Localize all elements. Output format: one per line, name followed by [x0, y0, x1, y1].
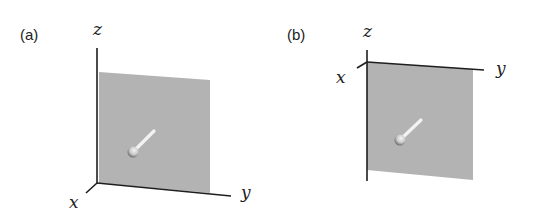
- panel-b: (b) z y x: [287, 21, 506, 181]
- panel-b-label: (b): [287, 26, 305, 43]
- sphere-b: [395, 135, 406, 146]
- figure-canvas: (a) z y x (b) z y x: [0, 0, 541, 220]
- z-axis-label-b: z: [362, 21, 373, 41]
- x-axis-label-b: x: [336, 67, 346, 87]
- x-axis-a: [86, 183, 97, 193]
- x-axis-label-a: x: [69, 192, 79, 212]
- y-axis-label-b: y: [495, 58, 506, 78]
- sphere-a: [128, 147, 139, 158]
- panel-a-label: (a): [20, 26, 38, 43]
- z-axis-label-a: z: [92, 19, 103, 39]
- y-axis-label-a: y: [240, 182, 251, 202]
- x-axis-b: [357, 62, 367, 68]
- panel-a: (a) z y x: [20, 19, 251, 212]
